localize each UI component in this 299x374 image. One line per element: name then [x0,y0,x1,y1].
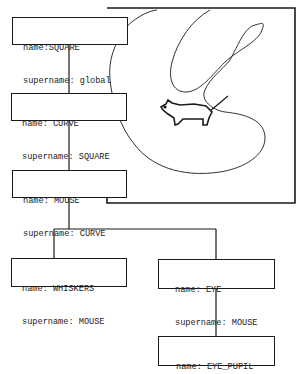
node-curve-supername: supername: SQUARE [22,152,126,163]
node-square: name:SQUARE supername: global [12,17,128,45]
node-eye-pupil-name: name: EYE_PUPIL [176,362,274,373]
closed-curve [110,10,265,173]
node-eye-supername: supername: MOUSE [175,318,274,329]
node-eye: name: EYE supername: MOUSE [158,259,275,289]
node-curve-name: name: CURVE [22,119,126,130]
node-eye-name: name: EYE [175,285,274,296]
node-square-supername: supername: global [23,76,127,87]
node-mouse-name: name: MOUSE [23,196,126,207]
node-curve: name: CURVE supername: SQUARE [11,93,127,121]
node-whiskers: name: WHISKERS supername: MOUSE [11,258,127,287]
node-whiskers-name: name: WHISKERS [22,284,126,295]
node-eye-pupil: name: EYE_PUPIL supername: EYE [158,336,275,366]
node-mouse: name: MOUSE supername: CURVE [12,170,127,198]
node-mouse-supername: supername: CURVE [23,229,126,240]
node-whiskers-supername: supername: MOUSE [22,317,126,328]
square-illustration [107,8,295,203]
node-square-name: name:SQUARE [23,43,127,54]
